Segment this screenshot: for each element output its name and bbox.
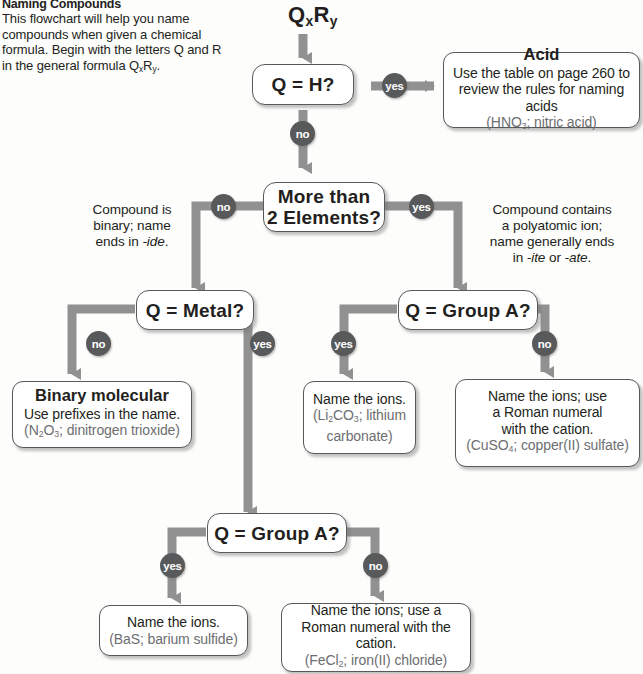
- result-binary-molecular[interactable]: Binary molecular Use prefixes in the nam…: [12, 381, 192, 448]
- decision-q-is-group-a-bottom-label: Q = Group A?: [214, 523, 340, 544]
- result-acid[interactable]: Acid Use the table on page 260 to review…: [443, 52, 640, 128]
- result-acid-example: (HNO3; nitric acid): [486, 114, 596, 135]
- result-fe-example: (FeCl2; iron(II) chloride): [305, 652, 447, 673]
- start-y: y: [330, 13, 338, 29]
- result-name-ions-copper[interactable]: Name the ions; use a Roman numeral with …: [455, 379, 640, 467]
- intro-body: This flowchart will help you name compou…: [2, 11, 234, 78]
- result-li-line1: Name the ions.: [313, 391, 406, 408]
- badge-yes-q-is-group-a-right: yes: [331, 331, 356, 356]
- result-binary-example: (N2O3; dinitrogen trioxide): [24, 422, 180, 443]
- badge-yes-q-is-metal: yes: [250, 331, 275, 356]
- decision-q-is-metal[interactable]: Q = Metal?: [136, 290, 254, 330]
- result-binary-line1: Use prefixes in the name.: [24, 406, 180, 423]
- decision-q-is-group-a-right-label: Q = Group A?: [405, 300, 531, 321]
- result-li-example-line2: carbonate): [327, 428, 393, 445]
- flowchart-page: Acid --> down to More than 2 Elements? -…: [0, 0, 643, 674]
- annotation-binary-line2: binary; name: [76, 218, 188, 234]
- badge-yes-more-than-2: yes: [409, 194, 434, 219]
- start-q: Q: [288, 2, 305, 27]
- decision-more-line1: More than: [278, 186, 371, 207]
- result-cu-line3: with the cation.: [502, 421, 594, 438]
- result-acid-line2: review the rules for naming acids: [451, 81, 632, 114]
- badge-no-q-is-group-a-bottom: no: [363, 553, 388, 578]
- annotation-polyatomic-ion: Compound contains a polyatomic ion; name…: [472, 202, 632, 266]
- badge-no-q-is-group-a-right: no: [532, 331, 557, 356]
- result-fe-line1: Name the ions; use a: [311, 602, 441, 619]
- annotation-polyatomic-line3: name generally ends: [472, 234, 632, 250]
- result-li-example-line1: (Li2CO3; lithium: [313, 407, 406, 428]
- annotation-polyatomic-line1: Compound contains: [472, 202, 632, 218]
- result-cu-line1: Name the ions; use: [488, 388, 607, 405]
- result-cu-line2: a Roman numeral: [493, 404, 603, 421]
- intro-block: Naming Compounds This flowchart will hel…: [2, 0, 234, 78]
- intro-title: Naming Compounds: [2, 0, 234, 11]
- annotation-binary-compound: Compound is binary; name ends in -ide.: [76, 202, 188, 250]
- result-name-ions-lithium[interactable]: Name the ions. (Li2CO3; lithium carbonat…: [303, 381, 416, 454]
- badge-yes-q-is-group-a-bottom: yes: [160, 553, 185, 578]
- decision-q-is-h[interactable]: Q = H?: [252, 64, 354, 105]
- result-cu-example: (CuSO4; copper(II) sulfate): [466, 437, 629, 458]
- badge-no-more-than-2: no: [211, 194, 236, 219]
- result-acid-heading: Acid: [524, 45, 560, 64]
- decision-more-line2: 2 Elements?: [267, 207, 381, 228]
- result-name-ions-barium[interactable]: Name the ions. (BaS; barium sulfide): [99, 605, 248, 656]
- result-fe-line2: Roman numeral with the cation.: [289, 619, 463, 652]
- annotation-polyatomic-line4: in -ite or -ate.: [472, 250, 632, 266]
- result-name-ions-iron[interactable]: Name the ions; use a Roman numeral with …: [281, 603, 471, 672]
- annotation-polyatomic-line2: a polyatomic ion;: [472, 218, 632, 234]
- badge-yes-acid: yes: [382, 73, 407, 98]
- annotation-binary-line1: Compound is: [76, 202, 188, 218]
- decision-q-is-metal-label: Q = Metal?: [146, 300, 245, 321]
- decision-q-is-h-label: Q = H?: [272, 74, 335, 95]
- result-bas-example: (BaS; barium sulfide): [109, 631, 238, 648]
- badge-no-q-is-metal: no: [86, 331, 111, 356]
- decision-q-is-group-a-bottom[interactable]: Q = Group A?: [207, 513, 347, 553]
- annotation-binary-line3: ends in -ide.: [76, 234, 188, 250]
- start-formula: QxRy: [288, 2, 338, 29]
- decision-more-than-2-elements[interactable]: More than 2 Elements?: [263, 182, 385, 232]
- start-r: R: [313, 2, 329, 27]
- decision-q-is-group-a-right[interactable]: Q = Group A?: [398, 290, 538, 330]
- badge-no-q-is-h: no: [290, 121, 315, 146]
- result-acid-line1: Use the table on page 260 to: [453, 65, 630, 82]
- result-binary-heading: Binary molecular: [35, 386, 169, 405]
- result-bas-line1: Name the ions.: [127, 614, 220, 631]
